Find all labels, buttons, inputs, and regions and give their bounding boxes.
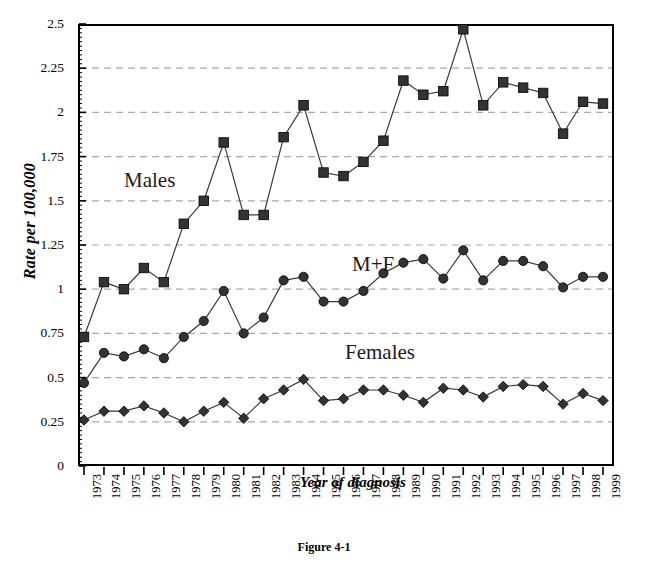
data-point [479, 276, 488, 285]
x-tick-label: 1975 [129, 474, 144, 534]
data-point [338, 394, 348, 404]
data-point [459, 246, 468, 255]
data-point [278, 385, 288, 395]
data-point [179, 219, 189, 229]
data-point [359, 286, 368, 295]
data-point [478, 101, 488, 111]
data-point [498, 381, 508, 391]
data-point [79, 332, 89, 342]
x-tick-label: 1994 [509, 474, 524, 534]
x-tick-label: 1997 [569, 474, 584, 534]
data-point [99, 406, 109, 416]
series-females [79, 374, 608, 427]
data-point [438, 383, 448, 393]
data-point [259, 210, 269, 220]
data-point [159, 354, 168, 363]
data-point [379, 136, 389, 146]
data-point [159, 277, 169, 287]
data-point [419, 90, 429, 100]
data-point [558, 129, 568, 139]
data-point [239, 210, 249, 220]
data-point [339, 171, 349, 181]
data-point [578, 388, 588, 398]
figure-caption: Figure 4-1 [0, 540, 648, 555]
data-point [499, 256, 508, 265]
data-point [259, 313, 268, 322]
data-point [319, 168, 329, 178]
data-point [519, 256, 528, 265]
data-point [518, 379, 528, 389]
x-axis-title: Year of diagnosis [300, 474, 406, 491]
data-point [199, 406, 209, 416]
x-tick-label: 1995 [529, 474, 544, 534]
data-point [339, 297, 348, 306]
data-point [139, 401, 149, 411]
data-point [439, 86, 449, 96]
data-point [538, 88, 548, 98]
data-point [79, 378, 88, 387]
x-tick-label: 1976 [149, 474, 164, 534]
x-tick-label: 1999 [609, 474, 624, 534]
data-point [598, 272, 607, 281]
series-line [84, 250, 603, 383]
data-point [179, 332, 188, 341]
data-point [518, 83, 528, 93]
data-point [239, 329, 248, 338]
data-point [139, 345, 148, 354]
data-point [79, 415, 89, 425]
data-point [578, 272, 587, 281]
data-point [279, 276, 288, 285]
x-tick-label: 1974 [109, 474, 124, 534]
data-point [598, 99, 608, 109]
data-point [578, 97, 588, 107]
data-point [299, 272, 308, 281]
x-tick-label: 1973 [90, 474, 105, 534]
series-label-mf: M+F [352, 252, 394, 277]
x-tick-label: 1993 [489, 474, 504, 534]
data-point [99, 348, 108, 357]
data-point [459, 25, 469, 35]
data-point [358, 385, 368, 395]
series-label-males: Males [124, 168, 175, 193]
data-point [219, 286, 228, 295]
x-tick-label: 1996 [549, 474, 564, 534]
data-point [279, 132, 289, 142]
data-point [539, 262, 548, 271]
data-point [199, 316, 208, 325]
x-tick-label: 1980 [229, 474, 244, 534]
data-point [179, 417, 189, 427]
data-point [159, 408, 169, 418]
data-point [398, 390, 408, 400]
data-point [558, 283, 567, 292]
x-tick-label: 1977 [169, 474, 184, 534]
data-point [498, 78, 508, 88]
data-point [199, 196, 209, 206]
x-tick-label: 1989 [409, 474, 424, 534]
data-point [359, 157, 369, 167]
x-tick-label: 1982 [269, 474, 284, 534]
data-point [458, 385, 468, 395]
data-point [478, 392, 488, 402]
data-point [119, 406, 129, 416]
x-tick-label: 1990 [429, 474, 444, 534]
x-tick-label: 1981 [249, 474, 264, 534]
data-point [319, 297, 328, 306]
data-point [99, 277, 109, 287]
x-tick-label: 1992 [469, 474, 484, 534]
figure-container: Rate per 100,000 00.250.50.7511.251.51.7… [0, 0, 648, 571]
data-point [418, 397, 428, 407]
data-point [219, 138, 229, 148]
x-tick-label: 1979 [209, 474, 224, 534]
data-point [399, 76, 409, 86]
x-tick-label: 1991 [449, 474, 464, 534]
data-point [439, 274, 448, 283]
data-point [139, 263, 149, 273]
x-tick-label: 1998 [589, 474, 604, 534]
data-point [399, 258, 408, 267]
series-mplusf [79, 246, 607, 388]
data-point [598, 395, 608, 405]
data-point [299, 101, 309, 111]
data-point [378, 385, 388, 395]
x-tick-label: 1978 [189, 474, 204, 534]
data-point [119, 352, 128, 361]
